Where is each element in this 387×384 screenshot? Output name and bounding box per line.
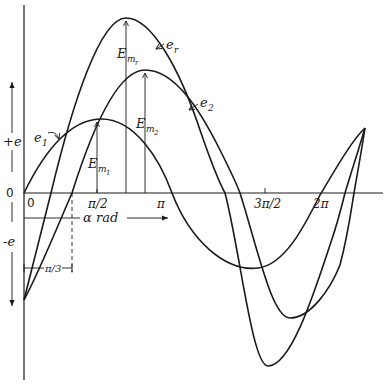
svg-text:r: r xyxy=(174,45,179,55)
tick-label-pi: π xyxy=(156,197,166,211)
svg-text:E: E xyxy=(116,46,127,61)
alpha-rad-label: α rad xyxy=(83,210,118,225)
phase-shift-label: π/3 xyxy=(44,263,61,274)
emr-label: E m r xyxy=(116,46,139,67)
svg-text:e: e xyxy=(166,37,174,52)
em2-label: E m 2 xyxy=(135,116,159,137)
negative-e-label: -e xyxy=(3,234,15,249)
svg-text:E: E xyxy=(87,156,98,171)
origin-x-label: 0 xyxy=(27,196,35,210)
svg-text:1: 1 xyxy=(42,138,48,148)
svg-text:2: 2 xyxy=(153,129,159,137)
svg-text:2: 2 xyxy=(207,103,214,113)
positive-e-label: +e xyxy=(3,134,22,149)
e1-label: e 1 xyxy=(34,130,59,148)
curve-er xyxy=(24,18,365,366)
tick-label-pi-half: π/2 xyxy=(87,197,108,211)
svg-text:e: e xyxy=(34,130,42,145)
svg-text:1: 1 xyxy=(106,169,110,177)
svg-text:E: E xyxy=(135,116,146,131)
curve-e1 xyxy=(24,119,365,268)
svg-text:e: e xyxy=(200,95,208,110)
sine-wave-diagram: +e -e 0 0 π/2 π 3π/2 2π α rad π/3 E m 1 … xyxy=(0,0,387,384)
origin-y-label: 0 xyxy=(6,186,14,200)
er-label: e r xyxy=(156,37,179,55)
tick-label-3pi-half: 3π/2 xyxy=(254,197,281,211)
svg-text:r: r xyxy=(135,59,139,67)
em1-label: E m 1 xyxy=(87,156,110,177)
